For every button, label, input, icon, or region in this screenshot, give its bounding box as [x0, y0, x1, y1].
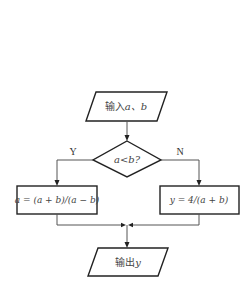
connector-yes-branch: Y [55, 146, 94, 186]
output-label: 输出y [115, 256, 141, 268]
arrow-head-icon [121, 223, 126, 227]
output-node: 输出y [88, 248, 168, 276]
input-node: 输入a、b [86, 92, 167, 121]
process-yes-node: a = (a + b)/(a − b) [15, 186, 100, 214]
arrow-head-icon [125, 135, 130, 141]
input-prefix: 输入 [105, 100, 125, 112]
arrow-head-icon [125, 242, 130, 248]
no-label: N [176, 146, 183, 157]
flowchart: 输入a、b a<b? Y N a = (a + b)/(a − b) y = 4… [0, 0, 250, 291]
arrow-head-icon [128, 223, 133, 227]
process-no-node: y = 4/(a + b) [160, 186, 239, 214]
decision-node: a<b? [93, 141, 161, 177]
output-prefix: 输出 [115, 256, 135, 268]
connector-no-branch: N [161, 146, 202, 186]
arrow-head-icon [55, 180, 60, 186]
output-vars: y [134, 257, 141, 268]
input-vars: a、b [125, 101, 147, 112]
connector-merge [57, 214, 199, 248]
input-label: 输入a、b [105, 100, 147, 112]
process-yes-label: a = (a + b)/(a − b) [15, 195, 100, 205]
process-no-label: y = 4/(a + b) [169, 195, 229, 205]
arrow-head-icon [197, 180, 202, 186]
decision-label: a<b? [114, 154, 141, 165]
yes-label: Y [69, 146, 76, 157]
connector-input-to-decision [125, 121, 130, 141]
